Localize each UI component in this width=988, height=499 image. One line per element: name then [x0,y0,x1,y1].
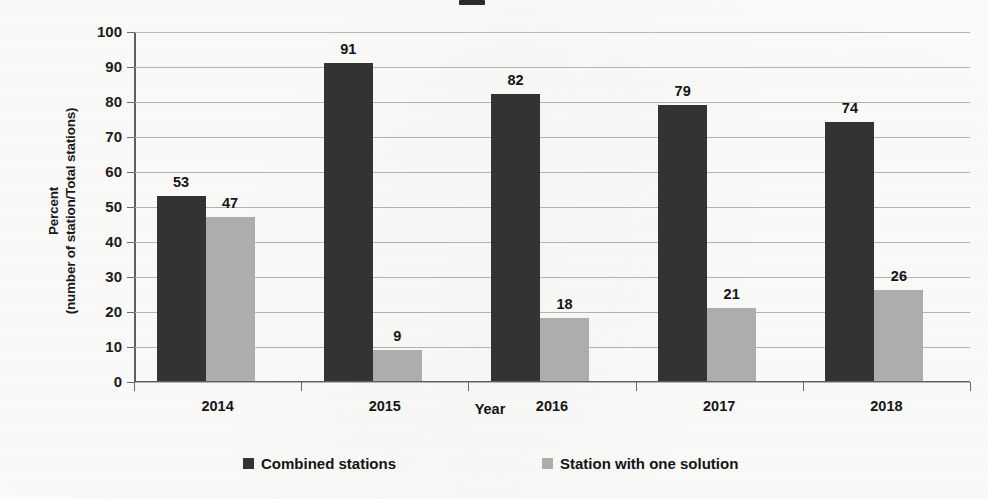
x-tick-label: 2018 [826,398,946,414]
y-tick-mark [127,172,135,173]
bar-value-label: 9 [362,328,432,344]
chart-legend: Combined stations Station with one solut… [0,455,988,481]
y-tick-label: 100 [76,23,122,40]
y-tick-label: 80 [76,93,122,110]
y-tick-label: 50 [76,198,122,215]
y-axis-title-line-1: Percent [45,31,62,391]
x-tick-label: 2014 [158,398,278,414]
y-axis-title: Percent (number of station/Total station… [45,31,79,391]
x-tick-mark [970,382,971,391]
y-tick-mark [127,137,135,138]
gridline [134,32,970,33]
bar-value-label: 79 [648,83,718,99]
bar-value-label: 91 [313,41,383,57]
y-tick-label: 90 [76,58,122,75]
y-tick-mark [127,312,135,313]
y-tick-mark [127,207,135,208]
bar [825,122,874,381]
y-tick-label: 70 [76,128,122,145]
gridline [134,382,970,383]
legend-label: Combined stations [261,455,396,472]
y-tick-label: 0 [76,373,122,390]
y-tick-mark [127,32,135,33]
legend-item-station-with-one-solution: Station with one solution [542,455,738,472]
legend-label: Station with one solution [560,455,738,472]
x-tick-mark [803,382,804,391]
legend-swatch-icon [542,458,553,469]
bar [874,290,923,381]
bar-value-label: 74 [815,100,885,116]
y-tick-mark [127,277,135,278]
y-tick-mark [127,67,135,68]
x-tick-label: 2015 [325,398,445,414]
y-tick-mark [127,347,135,348]
x-axis-title: Year [430,401,550,417]
x-tick-label: 2017 [659,398,779,414]
plot-area: 1009080706050403020100 53479198218792174… [134,32,970,382]
bar [206,217,255,382]
x-tick-mark [636,382,637,391]
bar [707,308,756,382]
bar-value-label: 21 [697,286,767,302]
y-tick-mark [127,102,135,103]
y-tick-label: 40 [76,233,122,250]
x-tick-mark [468,382,469,391]
bar-value-label: 26 [864,268,934,284]
x-tick-mark [301,382,302,391]
bar-value-label: 82 [481,72,551,88]
bar-value-label: 47 [195,195,265,211]
y-tick-label: 20 [76,303,122,320]
bar [373,350,422,382]
bar-value-label: 53 [146,174,216,190]
bar [491,94,540,381]
bar-value-label: 18 [530,296,600,312]
cropped-title-remnant [459,0,485,5]
legend-swatch-icon [243,458,254,469]
y-tick-label: 30 [76,268,122,285]
bar [658,105,707,382]
gridline [134,67,970,68]
y-tick-label: 60 [76,163,122,180]
y-tick-label: 10 [76,338,122,355]
chart-figure: Percent (number of station/Total station… [0,0,988,499]
bar [157,196,206,382]
x-tick-mark [134,382,135,391]
bar [540,318,589,381]
legend-item-combined-stations: Combined stations [243,455,396,472]
y-tick-mark [127,242,135,243]
